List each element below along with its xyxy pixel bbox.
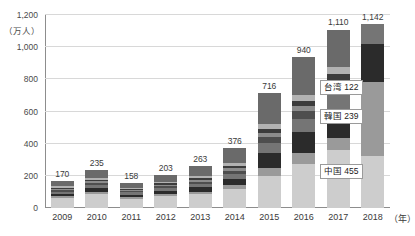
bar-segment <box>258 168 281 176</box>
bar-segment <box>85 170 108 178</box>
bar-segment <box>85 194 108 208</box>
y-axis-unit-label: （万人） <box>4 24 40 36</box>
bar-2009[interactable] <box>51 181 74 208</box>
x-axis-unit-label: （年） <box>389 212 415 225</box>
bar-segment <box>258 143 281 153</box>
bar-segment <box>292 164 315 208</box>
bar-segment <box>361 24 384 44</box>
bar-segment <box>292 119 315 132</box>
y-axis-tick-label: 800 <box>24 75 38 84</box>
bar-segment <box>223 189 246 208</box>
y-axis-tick-label: 400 <box>24 140 38 149</box>
bar-2012[interactable] <box>154 175 177 208</box>
bar-segment <box>258 93 281 124</box>
bar-2018[interactable] <box>361 24 384 208</box>
bar-value-label: 170 <box>39 170 85 179</box>
bar-segment <box>361 44 384 82</box>
annotation-korea: 韓国 239 <box>320 109 363 124</box>
bar-segment <box>327 30 350 67</box>
bar-2010[interactable] <box>85 170 108 208</box>
bar-segment <box>292 111 315 119</box>
bar-value-label: 1,142 <box>350 13 396 22</box>
bar-segment <box>154 196 177 208</box>
y-axis-tick-label: 200 <box>24 172 38 181</box>
bar-segment <box>258 176 281 208</box>
bar-segment <box>361 156 384 208</box>
bar-segment <box>258 153 281 167</box>
y-axis-tick-label: 1,000 <box>17 43 38 52</box>
bar-value-label: 263 <box>177 155 223 164</box>
bar-segment <box>154 175 177 182</box>
bar-segment <box>327 67 350 74</box>
bar-value-label: 940 <box>281 46 327 55</box>
annotation-china: 中国 455 <box>320 164 363 179</box>
bar-value-label: 203 <box>143 164 189 173</box>
y-axis-tick-label: 600 <box>24 108 38 117</box>
bar-2016[interactable] <box>292 57 315 208</box>
bar-segment <box>292 153 315 163</box>
bar-value-label: 376 <box>212 137 258 146</box>
bar-value-label: 716 <box>246 82 292 91</box>
annotation-taiwan: 台湾 122 <box>320 80 363 95</box>
bar-2014[interactable] <box>223 148 246 208</box>
bar-segment <box>292 132 315 153</box>
bar-segment <box>361 82 384 155</box>
bar-value-label: 235 <box>74 159 120 168</box>
bar-segment <box>189 194 212 208</box>
bar-2013[interactable] <box>189 166 212 208</box>
y-axis-tick-label: 0 <box>33 204 38 213</box>
bar-2011[interactable] <box>120 183 143 208</box>
bar-segment <box>327 138 350 150</box>
bar-2015[interactable] <box>258 93 281 208</box>
bar-segment <box>120 199 143 208</box>
bar-segment <box>223 148 246 164</box>
bar-segment <box>189 166 212 176</box>
y-axis-tick-label: 1,200 <box>17 11 38 20</box>
bar-segment <box>51 198 74 208</box>
bar-segment <box>292 57 315 95</box>
